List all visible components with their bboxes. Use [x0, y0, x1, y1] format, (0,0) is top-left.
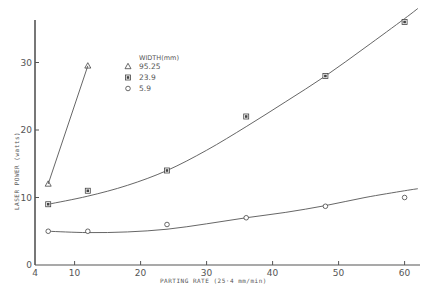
- x-tick-label: 50: [333, 268, 345, 278]
- circle-marker: [323, 204, 328, 209]
- y-tick-label: 10: [21, 193, 33, 203]
- circle-marker: [86, 229, 91, 234]
- y-axis: 0102030: [21, 20, 39, 270]
- circle-marker: [402, 195, 407, 200]
- legend-label: 23.9: [139, 73, 156, 82]
- triangle-marker: [125, 63, 131, 68]
- x-tick-label: 4: [32, 268, 38, 278]
- circle-marker: [46, 229, 51, 234]
- legend-item: 95.25: [125, 62, 161, 71]
- series-23-9: [46, 9, 418, 207]
- square-marker: [244, 114, 249, 119]
- legend-title: WIDTH(mm): [139, 54, 179, 62]
- x-axis-title: PARTING RATE (25·4 mm/min): [160, 277, 267, 284]
- x-axis: 4102030405060: [32, 261, 420, 278]
- legend-item: 5.9: [126, 84, 151, 93]
- square-marker: [323, 74, 328, 79]
- series-line: [48, 9, 418, 205]
- series-line: [48, 66, 88, 184]
- legend-item: 23.9: [126, 73, 156, 82]
- x-tick-label: 10: [69, 268, 81, 278]
- series-95-25: [45, 63, 91, 187]
- y-tick-label: 20: [21, 125, 33, 135]
- circle-marker: [244, 215, 249, 220]
- circle-marker: [165, 222, 170, 227]
- chart: 0102030 4102030405060 PARTING RATE (25·4…: [0, 0, 434, 296]
- plot-area: [45, 9, 418, 234]
- x-tick-label: 20: [135, 268, 147, 278]
- x-tick-label: 60: [399, 268, 411, 278]
- square-marker: [126, 75, 131, 80]
- x-tick-label: 40: [267, 268, 279, 278]
- series-5-9: [46, 189, 418, 234]
- square-marker: [46, 202, 51, 207]
- legend-label: 5.9: [139, 84, 151, 93]
- series-line: [48, 189, 418, 233]
- square-marker: [85, 188, 90, 193]
- circle-marker: [126, 86, 131, 91]
- square-marker: [165, 168, 170, 173]
- y-tick-label: 30: [21, 58, 33, 68]
- y-axis-title: LASER POWER (watts): [13, 132, 20, 210]
- legend-label: 95.25: [139, 62, 161, 71]
- square-marker: [402, 20, 407, 25]
- legend: WIDTH(mm) 95.2523.95.9: [125, 54, 179, 93]
